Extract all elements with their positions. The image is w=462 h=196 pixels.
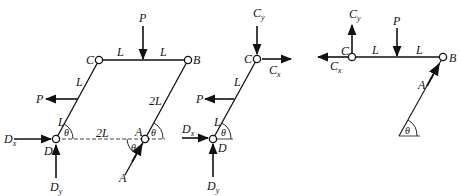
label-Dx-fbd: Dx [181, 122, 195, 138]
label-A-force: A [118, 171, 127, 185]
label-P-top: P [138, 11, 147, 25]
label-L-CB-right: L [159, 45, 167, 59]
label-A-fbd2: A [417, 78, 426, 92]
label-D-fbd: D [217, 141, 227, 155]
label-P-fbd: P [195, 92, 204, 106]
label-theta-D-fbd: θ [221, 127, 226, 138]
label-theta-fbd2: θ [405, 125, 410, 136]
member-CB-panel: Cy C Cx P L L B A θ [318, 7, 457, 136]
label-B: B [193, 53, 201, 67]
label-L-CB-left: L [116, 45, 124, 59]
label-L-DC-upper: L [75, 75, 83, 89]
force-A-arrow-fbd [427, 64, 439, 86]
label-Dy-fbd: Dy [206, 179, 220, 195]
pin-C-fbd2 [348, 53, 355, 60]
pin-C [95, 56, 102, 63]
label-2L-base: 2L [96, 126, 109, 140]
label-Dy: Dy [49, 180, 63, 196]
member-CD-panel: Cy C Cx L L P θ D Dx Dy [181, 6, 291, 195]
label-theta-D: θ [64, 127, 69, 138]
label-D: D [43, 144, 53, 158]
pin-D-fbd [209, 135, 216, 142]
label-B-fbd2: B [449, 51, 457, 65]
label-C-fbd2: C [341, 44, 350, 58]
pin-D [52, 135, 59, 142]
label-L-left-fbd2: L [371, 43, 379, 57]
label-P-fbd2: P [392, 14, 401, 28]
label-C: C [86, 53, 95, 67]
label-theta-A-lower: θ [131, 142, 136, 153]
label-Cx-fbd: Cx [269, 63, 281, 79]
label-A-pin: A [134, 125, 143, 139]
pin-B [184, 56, 191, 63]
label-2L-AB: 2L [149, 94, 162, 108]
label-P-left: P [35, 92, 44, 106]
label-Cy-fbd2: Cy [349, 7, 361, 23]
label-L-upper-fbd: L [233, 75, 241, 89]
label-Cx-fbd2: Cx [330, 59, 342, 75]
label-Cy-fbd: Cy [253, 6, 265, 22]
full-frame-panel: P C B L L L L P 2L 2L θ θ θ A A D Dx Dy [3, 11, 201, 196]
label-Dx: Dx [3, 132, 17, 148]
label-C-fbd: C [244, 52, 253, 66]
pin-B-fbd2 [439, 53, 446, 60]
pin-A [141, 135, 148, 142]
label-theta-A-upper: θ [151, 127, 156, 138]
label-L-right-fbd2: L [415, 43, 423, 57]
label-L-lower-fbd: L [213, 115, 221, 129]
pin-C-fbd [253, 55, 260, 62]
frame-diagram: P C B L L L L P 2L 2L θ θ θ A A D Dx Dy … [0, 0, 462, 196]
